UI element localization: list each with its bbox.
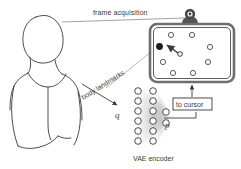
target-dot xyxy=(160,59,165,64)
to-cursor-label: to cursor xyxy=(176,101,203,108)
node xyxy=(150,138,157,145)
cursor-dot xyxy=(178,52,183,57)
node xyxy=(135,88,142,95)
diagram-svg xyxy=(0,0,241,169)
vae-encoder-caption: VAE encoder xyxy=(133,155,174,162)
target-dot-active xyxy=(156,43,163,50)
node xyxy=(135,138,142,145)
target-dot xyxy=(189,32,194,37)
node xyxy=(135,98,142,105)
target-dot xyxy=(170,70,175,75)
node xyxy=(150,88,157,95)
frame-acquisition-line xyxy=(62,18,184,22)
latent-q-label: q xyxy=(115,110,120,120)
node xyxy=(135,128,142,135)
node xyxy=(163,109,170,116)
node xyxy=(150,118,157,125)
target-dot xyxy=(207,44,212,49)
frame-acquisition-label: frame acquisition xyxy=(93,9,148,16)
node xyxy=(150,108,157,115)
output-p-label: p xyxy=(165,120,170,130)
webcam-icon xyxy=(182,9,198,23)
node xyxy=(135,108,142,115)
node xyxy=(150,128,157,135)
node xyxy=(135,118,142,125)
figure-canvas: frame acquisition body landmarks q p to … xyxy=(0,0,241,169)
target-dot xyxy=(190,70,195,75)
person-outline xyxy=(10,16,82,149)
target-dot xyxy=(205,59,210,64)
node xyxy=(150,98,157,105)
target-dot xyxy=(168,32,173,37)
